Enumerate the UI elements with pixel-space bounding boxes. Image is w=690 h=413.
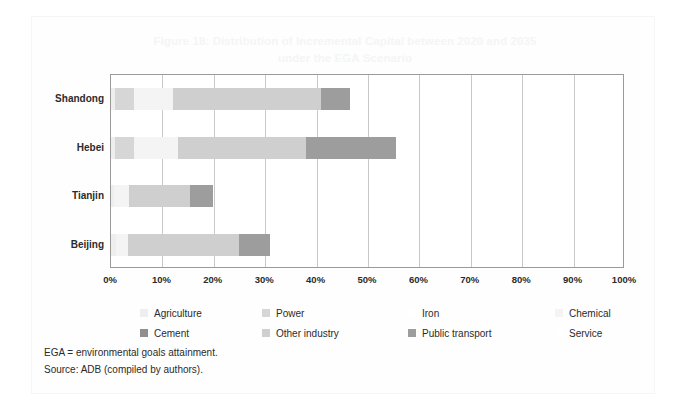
legend-swatch-icon [555,309,563,317]
note-abbreviation: EGA = environmental goals attainment. [44,344,218,361]
bar-row [111,137,625,159]
bar-segment [129,185,190,207]
legend-item[interactable]: Agriculture [140,303,202,323]
bar-segment [116,234,128,256]
figure-title: Figure 18: Distribution of Incremental C… [95,33,595,67]
bar-row [111,88,625,110]
y-axis-tick-label: Tianjin [6,190,104,201]
legend-item[interactable]: Other industry [262,323,339,343]
x-axis-tick-label: 40% [306,274,325,285]
x-axis-tick-label: 90% [563,274,582,285]
legend-label: Iron [422,308,439,319]
bar-segment [178,137,307,159]
legend-label: Agriculture [154,308,202,319]
bar-segment [173,88,322,110]
y-axis-tick-label: Beijing [6,238,104,249]
x-axis-tick-label: 70% [460,274,479,285]
bar-segment [134,137,178,159]
legend-item[interactable]: Iron [408,303,439,323]
x-axis-tick-label: 10% [152,274,171,285]
legend-item[interactable]: Service [555,323,602,343]
legend-swatch-icon [408,309,416,317]
legend-item[interactable]: Chemical [555,303,611,323]
bar-segment [190,185,213,207]
bar-segment [239,234,270,256]
bar-series-container [111,75,623,267]
figure-notes: EGA = environmental goals attainment. So… [44,344,218,378]
legend-label: Cement [154,328,189,339]
x-axis-tick-label: 20% [203,274,222,285]
bar-segment [321,88,350,110]
bar-segment [115,88,134,110]
x-axis-tick-label: 100% [612,274,636,285]
legend-item[interactable]: Public transport [408,323,491,343]
bar-segment [114,185,129,207]
y-axis-labels: ShandongHebeiTianjinBeijing [0,74,104,268]
legend-row-1: AgriculturePowerIronChemical [140,303,610,323]
x-axis-tick-label: 60% [409,274,428,285]
legend-swatch-icon [555,329,563,337]
figure-title-line-1: Figure 18: Distribution of Incremental C… [153,35,536,47]
bar-row [111,185,625,207]
legend-item[interactable]: Cement [140,323,189,343]
legend-row-2: CementOther industryPublic transportServ… [140,323,610,343]
y-axis-tick-label: Hebei [6,141,104,152]
x-axis-tick-label: 30% [255,274,274,285]
legend-swatch-icon [408,329,416,337]
x-axis-tick-label: 50% [357,274,376,285]
legend-swatch-icon [140,329,148,337]
legend-swatch-icon [140,309,148,317]
x-axis-tick-label: 80% [512,274,531,285]
legend-label: Power [276,308,304,319]
figure-title-line-2: under the EGA Scenario [278,52,412,64]
bar-row [111,234,625,256]
bar-segment [306,137,396,159]
legend-item[interactable]: Power [262,303,304,323]
legend-label: Service [569,328,602,339]
x-axis-tick-label: 0% [103,274,117,285]
note-source: Source: ADB (compiled by authors). [44,361,218,378]
bar-segment [128,234,239,256]
bar-segment [134,88,173,110]
legend-swatch-icon [262,309,270,317]
legend-label: Other industry [276,328,339,339]
figure-page: Figure 18: Distribution of Incremental C… [0,0,690,413]
legend-swatch-icon [262,329,270,337]
y-axis-tick-label: Shandong [6,93,104,104]
legend-label: Chemical [569,308,611,319]
legend-label: Public transport [422,328,491,339]
plot-area [110,74,624,268]
bar-segment [115,137,134,159]
chart-legend: AgriculturePowerIronChemical CementOther… [140,303,610,343]
x-axis-labels: 0%10%20%30%40%50%60%70%80%90%100% [110,274,624,290]
